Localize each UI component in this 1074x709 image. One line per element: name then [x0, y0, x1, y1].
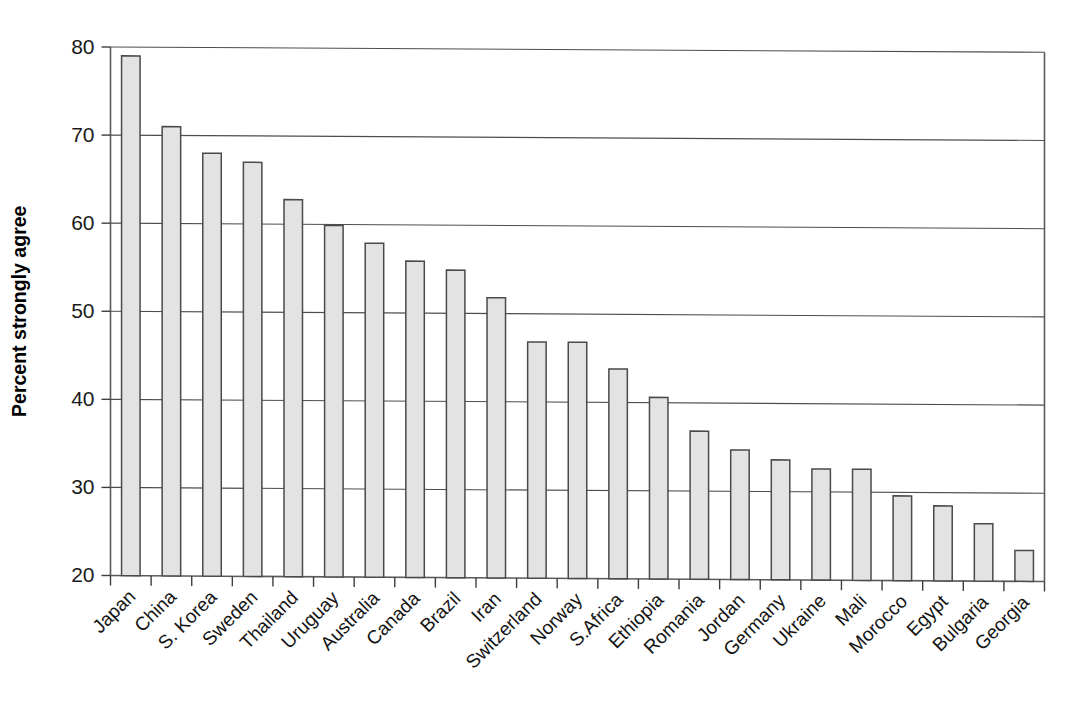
bar [325, 225, 344, 577]
gridline [111, 135, 1045, 140]
bar [1015, 550, 1034, 581]
y-tick-label: 80 [71, 35, 94, 58]
bar [528, 342, 547, 578]
bar-chart: 20304050607080 JapanChinaS. KoreaSwedenT… [0, 0, 1074, 709]
y-tick-label: 30 [71, 475, 94, 498]
bar [771, 460, 790, 580]
x-tick-label: Brazil [416, 588, 464, 636]
bar [934, 506, 953, 581]
bar [122, 56, 141, 576]
bar [365, 243, 384, 577]
bar [406, 261, 425, 577]
bars-series [122, 56, 1034, 582]
chart-canvas: 20304050607080 JapanChinaS. KoreaSwedenT… [0, 0, 1074, 709]
y-tick-label: 60 [71, 211, 94, 234]
y-axis-title: Percent strongly agree [8, 205, 30, 416]
bar [853, 469, 872, 580]
bar [731, 450, 750, 580]
bar [649, 397, 668, 579]
bar [446, 270, 465, 578]
bar [568, 342, 587, 578]
bar [812, 469, 831, 580]
y-tick-label: 70 [71, 123, 94, 146]
y-tick-label: 20 [71, 563, 94, 586]
bar [487, 298, 506, 578]
x-axis-tick-labels: JapanChinaS. KoreaSwedenThailandUruguayA… [88, 586, 1033, 673]
bar [243, 162, 262, 576]
bar [203, 153, 222, 576]
bar [974, 524, 993, 581]
y-tick-label: 50 [71, 299, 94, 322]
y-axis-tick-labels: 20304050607080 [71, 35, 94, 587]
bar [284, 200, 303, 577]
bar [893, 496, 912, 581]
bar [609, 369, 628, 579]
x-tick-label: Japan [88, 586, 139, 637]
bar [690, 431, 709, 579]
bar [162, 127, 181, 576]
y-axis-ticks [102, 47, 111, 576]
y-tick-label: 40 [71, 387, 94, 410]
gridline [111, 47, 1045, 52]
